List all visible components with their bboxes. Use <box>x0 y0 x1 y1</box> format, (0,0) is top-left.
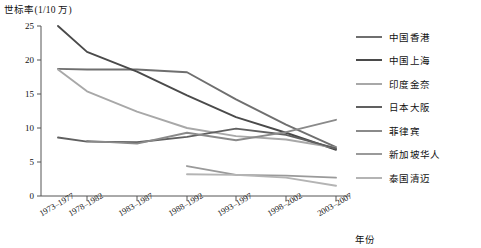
series-line <box>58 129 336 149</box>
legend-item[interactable]: 新加坡华人 <box>356 143 481 167</box>
legend-item[interactable]: 印度金奈 <box>356 72 481 96</box>
x-tick-label: 1993–1997 <box>215 191 253 219</box>
legend-item-label: 泰国清迈 <box>389 171 430 185</box>
x-axis-label: 年份 <box>355 232 375 246</box>
legend-item-label: 印度金奈 <box>389 77 430 91</box>
legend-item-label: 中国上海 <box>389 53 430 67</box>
legend-item-label: 新加坡华人 <box>389 147 441 161</box>
legend-color-swatch <box>356 130 382 132</box>
y-tick-label: 15 <box>25 89 35 99</box>
legend-item-label: 日本大阪 <box>389 100 430 114</box>
x-axis: 1973–19771978–19821983–19871988–19921993… <box>37 191 353 219</box>
series-lines <box>58 26 336 186</box>
legend: 中国香港中国上海印度金奈日本大阪菲律宾新加坡华人泰国清迈 <box>356 25 481 190</box>
y-tick-label: 25 <box>25 21 35 31</box>
x-tick-label: 2003–2007 <box>315 191 353 219</box>
y-tick-label: 0 <box>30 191 35 201</box>
legend-item-label: 中国香港 <box>389 30 430 44</box>
x-tick-label: 1988–1992 <box>166 191 204 219</box>
x-tick-label: 1998–2002 <box>265 191 303 219</box>
legend-item[interactable]: 中国香港 <box>356 25 481 49</box>
x-tick-label: 1983–1987 <box>116 191 154 219</box>
legend-item[interactable]: 中国上海 <box>356 49 481 73</box>
y-tick-label: 5 <box>30 157 35 167</box>
y-tick-label: 10 <box>25 123 35 133</box>
legend-color-swatch <box>356 36 382 38</box>
legend-item[interactable]: 菲律宾 <box>356 119 481 143</box>
legend-item[interactable]: 日本大阪 <box>356 96 481 120</box>
legend-color-swatch <box>356 153 382 155</box>
series-line <box>58 26 336 150</box>
y-tick-label: 20 <box>25 55 35 65</box>
y-axis: 0510152025 <box>25 21 41 201</box>
legend-color-swatch <box>356 83 382 85</box>
legend-color-swatch <box>356 106 382 108</box>
legend-item[interactable]: 泰国清迈 <box>356 166 481 190</box>
legend-color-swatch <box>356 177 382 179</box>
legend-color-swatch <box>356 59 382 61</box>
line-chart: 世标率(1/10 万) 0510152025 1973–19771978–198… <box>0 0 481 248</box>
legend-item-label: 菲律宾 <box>389 124 420 138</box>
